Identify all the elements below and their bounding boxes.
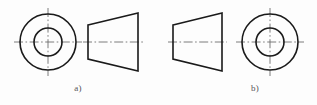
figure-b-group (168, 8, 304, 76)
figure-a-caption: a) (63, 83, 93, 93)
technical-drawing-sheet: a) b) (0, 0, 317, 105)
figure-a-circles-view (14, 8, 82, 76)
figure-b-circles-view (236, 8, 304, 76)
figure-b-cone-view (168, 13, 227, 71)
figure-b-caption: b) (240, 83, 270, 93)
figure-a-cone-view (83, 13, 143, 71)
figure-a-group (14, 8, 143, 76)
